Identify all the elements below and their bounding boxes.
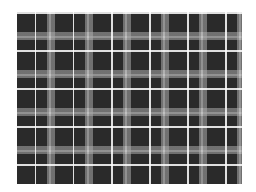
plaid-fabric-image: black, white and gray plaid fabric patte… [17,12,242,184]
